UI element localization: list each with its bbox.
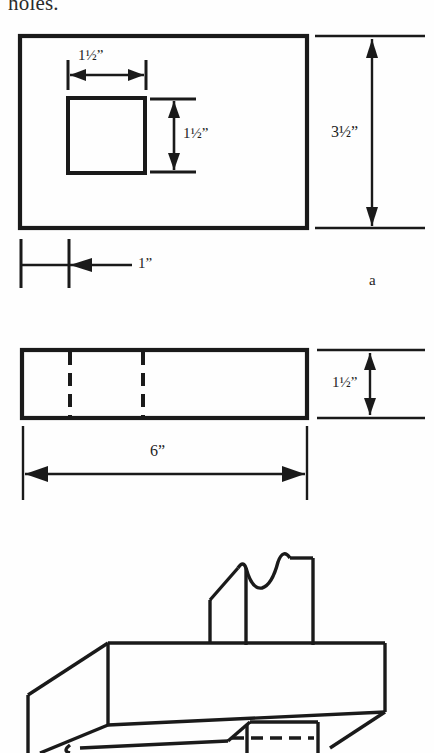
block-top-left-edge xyxy=(28,643,108,695)
lower-part-left-round xyxy=(66,745,70,753)
drawing-page: holes. xyxy=(0,0,434,753)
profile-left-slope xyxy=(210,568,238,600)
block-right-chamfer xyxy=(330,712,385,748)
lower-part-top-edge xyxy=(80,741,228,748)
figure-isometric-drawing xyxy=(0,0,434,753)
